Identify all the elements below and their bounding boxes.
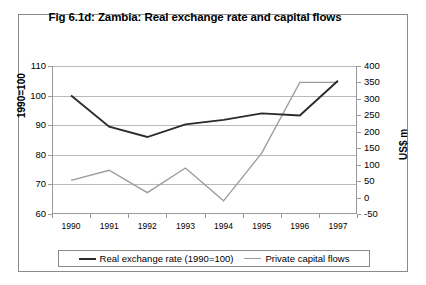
x-axis-tick-label: 1993 (165, 222, 205, 231)
y-axis-right-tickmark (357, 115, 361, 116)
y-axis-right-tick-label: 100 (364, 160, 392, 169)
x-axis-tickmark (357, 214, 358, 218)
series-line-private-capital-flows (71, 82, 338, 200)
x-axis-tickmark (52, 214, 53, 218)
x-axis-tick-label: 1997 (318, 222, 358, 231)
legend-label: Private capital flows (265, 254, 349, 264)
y-axis-left-tick-label: 60 (16, 209, 46, 218)
y-axis-right-tickmark (357, 165, 361, 166)
series-layer (52, 66, 357, 214)
y-axis-right-tickmark (357, 198, 361, 199)
x-axis-tickmark (281, 214, 282, 218)
y-axis-right-tickmark (357, 148, 361, 149)
y-axis-right-tickmark (357, 99, 361, 100)
x-axis-tickmark (166, 214, 167, 218)
y-axis-left-tick-label: 70 (16, 179, 46, 188)
x-axis-tick-label: 1994 (204, 222, 244, 231)
x-axis-tick-label: 1991 (89, 222, 129, 231)
x-axis-tickmark (243, 214, 244, 218)
x-axis-tick-label: 1990 (51, 222, 91, 231)
legend-entry: Real exchange rate (1990=100) (79, 254, 234, 264)
chart-figure: Fig 6.1d: Zambia: Real exchange rate and… (0, 0, 426, 285)
y-axis-left-tick-label: 110 (16, 61, 46, 70)
x-axis-tickmark (90, 214, 91, 218)
x-axis-tick-label: 1992 (127, 222, 167, 231)
y-axis-right-tick-label: 400 (364, 61, 392, 70)
plot-area (52, 66, 357, 214)
y-axis-right-tick-label: 300 (364, 94, 392, 103)
series-line-real-exchange-rate (71, 81, 338, 137)
y-axis-right-tickmark (357, 82, 361, 83)
legend-line-swatch (79, 258, 96, 260)
y-axis-right-tick-label: 150 (364, 143, 392, 152)
x-axis-tick-label: 1996 (280, 222, 320, 231)
y-axis-right-tick-label: 200 (364, 127, 392, 136)
x-axis-tickmark (319, 214, 320, 218)
legend-entry: Private capital flows (244, 254, 349, 264)
y-axis-right-tickmark (357, 181, 361, 182)
legend-line-swatch (244, 258, 261, 259)
y-axis-right-title: US$ m (398, 129, 409, 160)
y-axis-left-tick-label: 100 (16, 91, 46, 100)
y-axis-right-tick-label: 350 (364, 77, 392, 86)
chart-title: Fig 6.1d: Zambia: Real exchange rate and… (40, 10, 350, 24)
x-axis-tickmark (128, 214, 129, 218)
y-axis-left-tick-label: 90 (16, 120, 46, 129)
x-axis-tickmark (205, 214, 206, 218)
y-axis-left-tick-label: 80 (16, 150, 46, 159)
y-axis-right-tick-label: 50 (364, 176, 392, 185)
y-axis-right-tick-label: 0 (364, 193, 392, 202)
y-axis-right-tickmark (357, 132, 361, 133)
x-axis-tick-label: 1995 (242, 222, 282, 231)
y-axis-right-tick-label: -50 (364, 209, 392, 218)
y-axis-right-tick-label: 250 (364, 110, 392, 119)
legend-label: Real exchange rate (1990=100) (100, 254, 234, 264)
y-axis-right-tickmark (357, 66, 361, 67)
chart-legend: Real exchange rate (1990=100)Private cap… (58, 250, 370, 267)
